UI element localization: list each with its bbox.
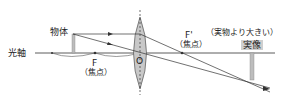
focal-point-f-label: F — [92, 58, 97, 68]
ray-arrow-icon — [108, 32, 113, 36]
focal-point-f-prime-label: F' — [185, 30, 193, 40]
convex-lens-diagram — [0, 0, 287, 103]
optical-axis-label: 光軸 — [8, 48, 26, 58]
focal-point-f-dot — [94, 52, 97, 55]
real-image-label: 実像 — [241, 40, 263, 50]
focal-point-f-note: （焦点） — [80, 68, 112, 78]
real-image-arrow — [250, 53, 254, 80]
ray-arrow-icon — [107, 42, 113, 45]
lens-center-label: O — [136, 56, 143, 66]
image-size-note: （実物より大きい） — [206, 28, 278, 38]
object-label: 物体 — [50, 27, 68, 37]
object-arrow — [72, 34, 75, 53]
axis-tick — [51, 52, 53, 54]
focal-point-f-prime-note: （焦点） — [175, 40, 207, 50]
